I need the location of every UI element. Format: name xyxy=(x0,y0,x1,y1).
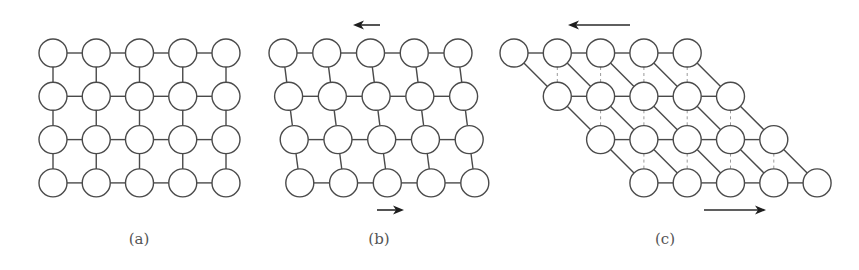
atom-circle xyxy=(417,169,445,197)
diagonal-bond xyxy=(524,63,548,87)
atom-circle xyxy=(275,82,303,110)
diagonal-bond xyxy=(697,149,721,173)
atom-circle xyxy=(39,169,67,197)
vertical-bond xyxy=(416,67,418,83)
atom-circle xyxy=(406,82,434,110)
vertical-bond xyxy=(340,153,342,169)
atom-circle xyxy=(400,39,428,67)
atom-circle xyxy=(126,39,154,67)
atom-circle xyxy=(587,82,615,110)
vertical-bond xyxy=(422,110,424,126)
atom-circle xyxy=(587,126,615,154)
vertical-bond xyxy=(383,153,385,169)
atom-circle xyxy=(673,39,701,67)
atom-circle xyxy=(126,126,154,154)
atom-circle xyxy=(39,126,67,154)
vertical-bond xyxy=(465,110,467,126)
diagonal-bond xyxy=(654,106,678,130)
vertical-bond xyxy=(471,153,473,169)
atom-circle xyxy=(717,169,745,197)
atom-circle xyxy=(286,169,314,197)
lattice-shear-figure: (a) (b) (c) xyxy=(0,0,859,270)
atom-circle xyxy=(280,126,308,154)
diagonal-bond xyxy=(654,63,678,87)
atom-circle xyxy=(169,82,197,110)
atom-circle xyxy=(212,82,240,110)
atom-circle xyxy=(461,169,489,197)
diagonal-bond xyxy=(784,149,808,173)
atom-circle xyxy=(212,39,240,67)
vertical-bond xyxy=(378,110,380,126)
atom-circle xyxy=(673,82,701,110)
vertical-bond xyxy=(329,67,331,83)
atom-circle xyxy=(82,39,110,67)
atom-circle xyxy=(543,82,571,110)
diagonal-bond xyxy=(567,106,591,130)
vertical-bond xyxy=(296,153,298,169)
atom-circle xyxy=(500,39,528,67)
atom-circle xyxy=(212,169,240,197)
atom-circle xyxy=(543,39,571,67)
diagonal-bond xyxy=(610,63,634,87)
atom-circle xyxy=(717,126,745,154)
atom-circle xyxy=(324,126,352,154)
panel-c-plastic-slip-lattice xyxy=(500,21,831,215)
diagonal-bond xyxy=(697,63,721,87)
atom-circle xyxy=(169,169,197,197)
panel-a-caption: (a) xyxy=(129,230,150,248)
atom-circle xyxy=(82,126,110,154)
atom-circle xyxy=(212,126,240,154)
atom-circle xyxy=(318,82,346,110)
atom-circle xyxy=(269,39,297,67)
diagonal-bond xyxy=(740,149,764,173)
atom-circle xyxy=(630,169,658,197)
atom-circle xyxy=(630,39,658,67)
atom-circle xyxy=(357,39,385,67)
diagonal-bond xyxy=(654,149,678,173)
atom-circle xyxy=(450,82,478,110)
atom-circle xyxy=(803,169,831,197)
atom-circle xyxy=(587,39,615,67)
panel-a-square-lattice xyxy=(39,39,240,197)
atom-circle xyxy=(373,169,401,197)
atom-circle xyxy=(313,39,341,67)
diagonal-bond xyxy=(610,149,634,173)
atom-circle xyxy=(455,126,483,154)
atom-circle xyxy=(39,82,67,110)
atom-circle xyxy=(760,169,788,197)
figure-canvas: (a) (b) (c) xyxy=(0,0,859,270)
panel-c-caption: (c) xyxy=(655,230,675,248)
diagonal-bond xyxy=(697,106,721,130)
atom-circle xyxy=(630,82,658,110)
atom-circle xyxy=(39,39,67,67)
atom-circle xyxy=(82,169,110,197)
atom-circle xyxy=(126,169,154,197)
vertical-bond xyxy=(285,67,287,83)
atom-circle xyxy=(411,126,439,154)
atom-circle xyxy=(362,82,390,110)
atom-circle xyxy=(444,39,472,67)
atom-circle xyxy=(169,39,197,67)
vertical-bond xyxy=(334,110,336,126)
vertical-bond xyxy=(290,110,292,126)
diagonal-bond xyxy=(567,63,591,87)
atom-circle xyxy=(760,126,788,154)
atom-circle xyxy=(717,82,745,110)
atom-circle xyxy=(126,82,154,110)
atom-circle xyxy=(82,82,110,110)
diagonal-bond xyxy=(610,106,634,130)
vertical-bond xyxy=(460,67,462,83)
vertical-bond xyxy=(372,67,374,83)
panel-b-caption: (b) xyxy=(368,230,389,248)
atom-circle xyxy=(368,126,396,154)
diagonal-bond xyxy=(740,106,764,130)
atom-circle xyxy=(630,126,658,154)
atom-circle xyxy=(169,126,197,154)
panel-b-elastic-shear-lattice xyxy=(269,21,489,215)
vertical-bond xyxy=(427,153,429,169)
atom-circle xyxy=(673,169,701,197)
atom-circle xyxy=(673,126,701,154)
atom-circle xyxy=(330,169,358,197)
